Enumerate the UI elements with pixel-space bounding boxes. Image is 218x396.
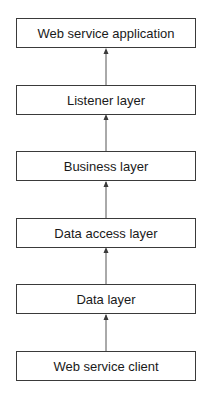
node-label: Data access layer bbox=[54, 226, 157, 241]
node-data-access-layer: Data access layer bbox=[16, 218, 196, 248]
node-label: Listener layer bbox=[67, 93, 145, 108]
arrowhead-icon bbox=[104, 314, 109, 320]
arrowhead-icon bbox=[104, 48, 109, 54]
node-label: Web service client bbox=[53, 359, 158, 374]
node-web-service-application: Web service application bbox=[16, 18, 196, 48]
node-label: Data layer bbox=[76, 292, 135, 307]
node-label: Business layer bbox=[64, 159, 149, 174]
node-business-layer: Business layer bbox=[16, 151, 196, 181]
arrows-layer bbox=[0, 0, 218, 396]
arrowhead-icon bbox=[104, 181, 109, 187]
node-data-layer: Data layer bbox=[16, 284, 196, 314]
node-web-service-client: Web service client bbox=[16, 351, 196, 381]
node-listener-layer: Listener layer bbox=[16, 85, 196, 115]
node-label: Web service application bbox=[37, 26, 174, 41]
